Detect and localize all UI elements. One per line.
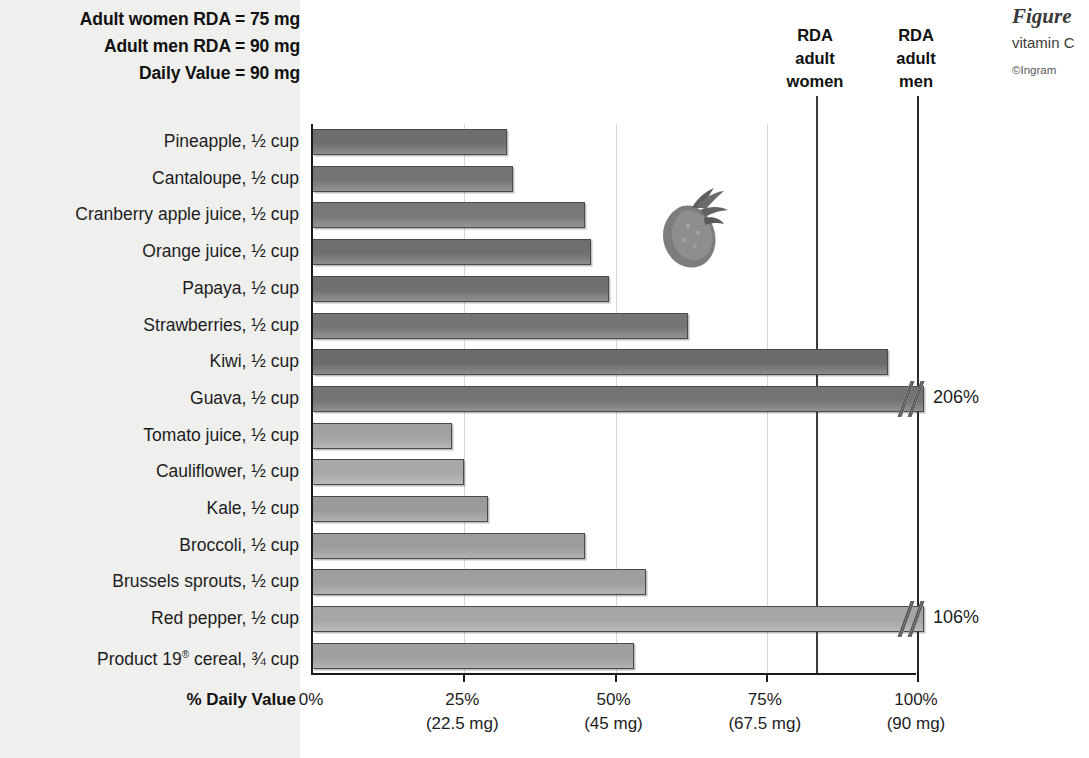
y-axis-label: Product 19® cereal, ¾ cup <box>97 642 299 672</box>
x-axis-tick <box>463 673 465 682</box>
chart-row: Kale, ½ cup <box>313 491 916 528</box>
daily-value-note: Daily Value = 90 mg <box>0 60 300 87</box>
chart-plot-area: Pineapple, ½ cupCantaloupe, ½ cupCranber… <box>311 124 916 675</box>
chart-row: Cantaloupe, ½ cup <box>313 161 916 198</box>
y-axis-label: Tomato juice, ½ cup <box>143 422 299 448</box>
rda-women-line3: women <box>762 70 868 93</box>
bar <box>313 202 585 228</box>
vitamin-c-figure: Adult women RDA = 75 mg Adult men RDA = … <box>0 0 1089 758</box>
bar <box>313 129 507 155</box>
chart-row: Pineapple, ½ cup <box>313 124 916 161</box>
y-axis-label: Kiwi, ½ cup <box>210 348 300 374</box>
bar <box>313 459 464 485</box>
x-axis-tick-label: 100%(90 mg) <box>856 688 976 736</box>
bar <box>313 166 513 192</box>
bar <box>313 606 924 632</box>
bar <box>313 643 634 669</box>
chart-row: Broccoli, ½ cup <box>313 528 916 565</box>
chart-row: Cauliflower, ½ cup <box>313 454 916 491</box>
bar <box>313 349 888 375</box>
bar <box>313 239 591 265</box>
women-rda-note: Adult women RDA = 75 mg <box>0 6 300 33</box>
rda-notes: Adult women RDA = 75 mg Adult men RDA = … <box>0 6 300 87</box>
bar <box>313 496 488 522</box>
chart-row: Guava, ½ cup206% <box>313 381 916 418</box>
caption-body: vitamin C <box>1012 34 1089 51</box>
y-axis-label: Brussels sprouts, ½ cup <box>112 568 299 594</box>
x-axis-tick <box>766 673 768 682</box>
reference-line-men <box>917 96 919 673</box>
bar-overflow-value: 206% <box>933 384 979 411</box>
y-axis-label: Papaya, ½ cup <box>182 275 299 301</box>
x-axis-tick-label: 50%(45 mg) <box>554 688 674 736</box>
chart-row: Orange juice, ½ cup <box>313 234 916 271</box>
bar <box>313 386 924 412</box>
men-rda-note: Adult men RDA = 90 mg <box>0 33 300 60</box>
y-axis-label: Red pepper, ½ cup <box>151 605 299 631</box>
caption-credit: ©Ingram <box>1012 64 1089 76</box>
caption-title: Figure <box>1012 4 1089 29</box>
rda-men-line1: RDA <box>863 24 969 47</box>
bar <box>313 569 646 595</box>
bar-overflow-value: 106% <box>933 604 979 631</box>
chart-row: Kiwi, ½ cup <box>313 344 916 381</box>
chart-row: Brussels sprouts, ½ cup <box>313 564 916 601</box>
x-axis-tick-label: 0% <box>251 688 371 712</box>
x-axis-tick-label: 75%(67.5 mg) <box>705 688 825 736</box>
chart-row: Cranberry apple juice, ½ cup <box>313 197 916 234</box>
chart-row: Papaya, ½ cup <box>313 271 916 308</box>
chart-row: Tomato juice, ½ cup <box>313 418 916 455</box>
figure-caption: Figure vitamin C ©Ingram <box>1012 4 1089 76</box>
bar <box>313 533 585 559</box>
rda-women-line2: adult <box>762 47 868 70</box>
x-axis-tick <box>615 673 617 682</box>
rda-men-reference-header: RDA adult men <box>863 24 969 93</box>
rda-women-line1: RDA <box>762 24 868 47</box>
rda-men-line2: adult <box>863 47 969 70</box>
y-axis-label: Kale, ½ cup <box>207 495 299 521</box>
y-axis-label: Cantaloupe, ½ cup <box>152 165 299 191</box>
bar <box>313 423 452 449</box>
y-axis-label: Strawberries, ½ cup <box>143 312 299 338</box>
chart-row: Product 19® cereal, ¾ cup <box>313 638 916 675</box>
chart-row: Strawberries, ½ cup <box>313 308 916 345</box>
y-axis-label: Orange juice, ½ cup <box>142 238 299 264</box>
y-axis-label: Pineapple, ½ cup <box>164 128 299 154</box>
x-axis-tick-label: 25%(22.5 mg) <box>402 688 522 736</box>
y-axis-label: Broccoli, ½ cup <box>179 532 299 558</box>
rda-women-reference-header: RDA adult women <box>762 24 868 93</box>
bar <box>313 313 688 339</box>
y-axis-label: Cranberry apple juice, ½ cup <box>75 201 299 227</box>
bar <box>313 276 609 302</box>
x-axis-tick <box>917 673 919 682</box>
y-axis-label: Cauliflower, ½ cup <box>156 458 299 484</box>
chart-row: Red pepper, ½ cup106% <box>313 601 916 638</box>
rda-men-line3: men <box>863 70 969 93</box>
y-axis-label: Guava, ½ cup <box>190 385 299 411</box>
